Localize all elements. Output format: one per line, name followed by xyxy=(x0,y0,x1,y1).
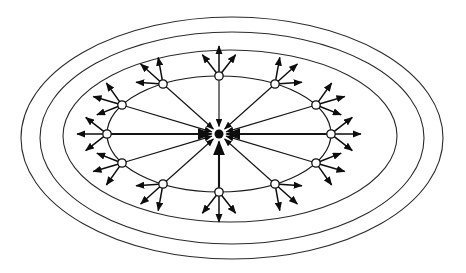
outward-arrow-n12-3 xyxy=(318,166,331,185)
outward-arrow-n09-3 xyxy=(136,184,159,185)
outward-arrow-n11-2 xyxy=(278,187,297,204)
outward-arrow-n05-1 xyxy=(136,82,159,83)
node-n07[interactable] xyxy=(103,130,111,138)
spoke-n03 xyxy=(225,87,272,129)
outward-arrow-n06-2 xyxy=(93,96,118,103)
diagram-canvas: Radial hub-and-spoke network over concen… xyxy=(0,0,466,273)
outward-arrow-n11-3 xyxy=(276,188,280,210)
outward-arrow-n08-1 xyxy=(106,166,119,185)
outward-arrow-n10-3 xyxy=(202,195,216,213)
outward-arrow-n09-2 xyxy=(141,187,160,204)
outward-arrow-n04-1 xyxy=(202,55,216,73)
node-n04[interactable] xyxy=(215,72,223,80)
node-n12[interactable] xyxy=(312,159,320,167)
outward-arrow-n09-1 xyxy=(158,188,162,210)
outward-arrow-n05-3 xyxy=(158,57,162,79)
spoke-n09 xyxy=(166,139,213,181)
node-n08[interactable] xyxy=(118,159,126,167)
node-n03[interactable] xyxy=(271,80,279,88)
outward-arrow-n08-2 xyxy=(93,164,118,171)
outward-arrow-n11-1 xyxy=(279,184,302,185)
outward-arrow-n02-1 xyxy=(318,83,331,102)
outward-arrow-n03-1 xyxy=(276,57,280,79)
outward-arrow-n10-1 xyxy=(222,195,236,213)
outward-arrow-n12-2 xyxy=(320,164,345,171)
outward-arrow-n04-3 xyxy=(222,55,236,73)
spoke-n11 xyxy=(225,139,272,181)
node-n01[interactable] xyxy=(327,130,335,138)
outward-arrow-n01-3 xyxy=(334,137,352,151)
spoke-n08 xyxy=(126,136,212,162)
node-n09[interactable] xyxy=(159,180,167,188)
node-n10[interactable] xyxy=(215,188,223,196)
outward-arrow-n06-3 xyxy=(106,83,119,102)
outward-arrow-n02-2 xyxy=(320,96,345,103)
node-n11[interactable] xyxy=(271,180,279,188)
radial-network-diagram: Radial hub-and-spoke network over concen… xyxy=(0,0,466,273)
spoke-n05 xyxy=(166,87,213,129)
outward-arrow-n07-3 xyxy=(86,117,104,131)
node-n02[interactable] xyxy=(312,101,320,109)
spoke-n06 xyxy=(126,106,212,132)
outward-arrow-n03-2 xyxy=(278,64,297,81)
outward-arrow-n03-3 xyxy=(279,82,302,83)
hub-marker[interactable] xyxy=(215,130,224,139)
outward-arrow-n01-1 xyxy=(334,117,352,131)
outward-arrow-n07-1 xyxy=(86,137,104,151)
node-n06[interactable] xyxy=(118,101,126,109)
hub-node[interactable] xyxy=(215,130,224,139)
spoke-n12 xyxy=(226,136,312,162)
node-n05[interactable] xyxy=(159,80,167,88)
outward-arrow-n05-2 xyxy=(141,64,160,81)
spoke-n02 xyxy=(226,106,312,132)
